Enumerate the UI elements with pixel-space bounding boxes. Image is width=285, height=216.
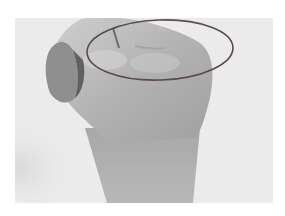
fist-photo <box>15 18 273 203</box>
fist-illustration <box>15 18 273 203</box>
